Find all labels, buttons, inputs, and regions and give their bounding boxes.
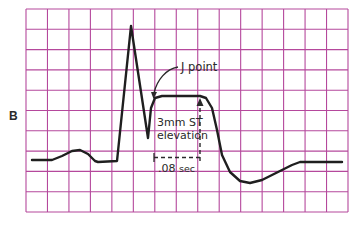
ecg-grid bbox=[26, 9, 348, 212]
duration-value: .08 bbox=[158, 162, 176, 175]
j-point-label: J point bbox=[181, 62, 217, 74]
j-point-arrow bbox=[154, 67, 178, 93]
duration-label: .08 sec bbox=[158, 163, 195, 174]
ecg-figure: B J point 3mm ST elevation .08 sec bbox=[0, 0, 353, 234]
duration-unit: sec bbox=[179, 163, 195, 174]
elevation-label: elevation bbox=[157, 130, 208, 141]
st-elevation-label: 3mm ST bbox=[157, 117, 203, 128]
panel-label: B bbox=[9, 109, 18, 123]
